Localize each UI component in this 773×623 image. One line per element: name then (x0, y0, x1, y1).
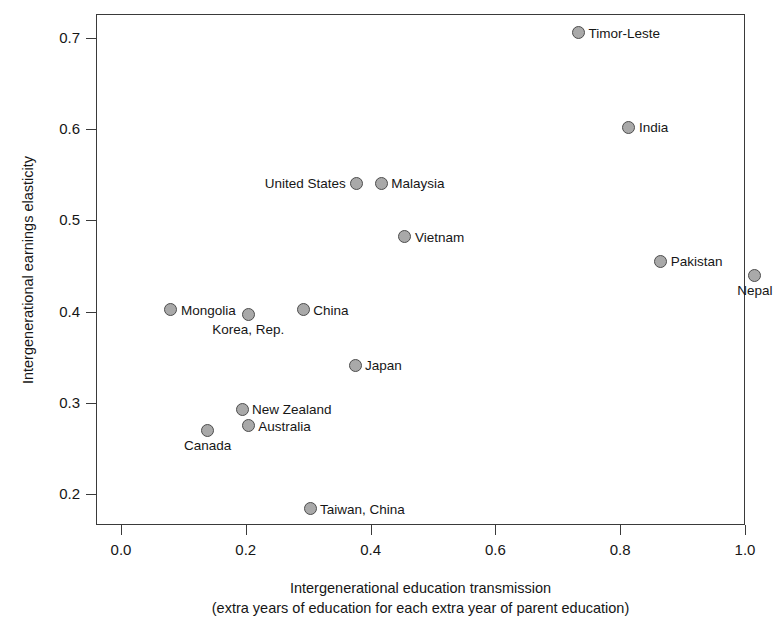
data-point[interactable] (242, 419, 255, 432)
data-point[interactable] (375, 177, 388, 190)
x-tick-mark (121, 525, 122, 535)
data-point-label: Japan (365, 359, 402, 372)
x-tick-mark (246, 525, 247, 535)
data-point-label: Korea, Rep. (212, 323, 284, 336)
y-tick-label: 0.7 (40, 29, 80, 46)
x-tick-label: 0.8 (600, 541, 640, 558)
x-axis-title: Intergenerational education transmission… (96, 578, 745, 618)
data-point-label: Vietnam (415, 230, 464, 243)
y-tick-mark (86, 403, 96, 404)
data-point[interactable] (350, 177, 363, 190)
x-axis-title-sub: (extra years of education for each extra… (96, 598, 745, 618)
x-axis-title-main: Intergenerational education transmission (290, 580, 551, 596)
y-tick-label: 0.5 (40, 211, 80, 228)
data-point[interactable] (236, 403, 249, 416)
data-point-label: China (313, 303, 348, 316)
x-tick-mark (745, 525, 746, 535)
data-point-label: Nepal (737, 284, 772, 297)
y-tick-mark (86, 38, 96, 39)
data-point[interactable] (304, 502, 317, 515)
x-tick-label: 0.6 (475, 541, 515, 558)
y-tick-label: 0.3 (40, 394, 80, 411)
y-tick-mark (86, 220, 96, 221)
data-point[interactable] (242, 308, 255, 321)
y-tick-label: 0.6 (40, 120, 80, 137)
data-point-label: Mongolia (181, 303, 236, 316)
data-point[interactable] (201, 424, 214, 437)
y-tick-mark (86, 494, 96, 495)
data-point-label: Timor-Leste (588, 26, 660, 39)
x-tick-label: 0.0 (101, 541, 141, 558)
data-point-label: Australia (258, 419, 311, 432)
data-point-label: Taiwan, China (320, 502, 405, 515)
data-point-label: New Zealand (252, 403, 332, 416)
data-point[interactable] (297, 303, 310, 316)
x-tick-label: 1.0 (725, 541, 765, 558)
data-point[interactable] (349, 359, 362, 372)
x-tick-mark (620, 525, 621, 535)
scatter-chart: 0.20.30.40.50.60.7 0.00.20.40.60.81.0 Ti… (0, 0, 773, 623)
x-tick-label: 0.4 (351, 541, 391, 558)
x-tick-label: 0.2 (226, 541, 266, 558)
y-tick-mark (86, 129, 96, 130)
data-point-label: India (639, 121, 668, 134)
data-point-label: United States (265, 177, 346, 190)
y-tick-label: 0.2 (40, 485, 80, 502)
x-tick-mark (495, 525, 496, 535)
data-point-label: Canada (184, 439, 231, 452)
y-tick-label: 0.4 (40, 303, 80, 320)
data-point-label: Pakistan (671, 255, 723, 268)
data-point[interactable] (572, 26, 585, 39)
x-tick-mark (371, 525, 372, 535)
y-tick-mark (86, 312, 96, 313)
data-point[interactable] (748, 269, 761, 282)
y-axis-title: Intergenerational earnings elasticity (20, 90, 36, 450)
data-point-label: Malaysia (391, 177, 444, 190)
